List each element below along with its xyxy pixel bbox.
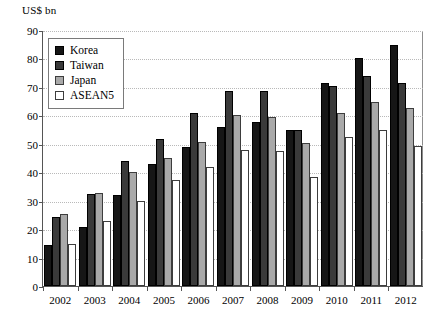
- bar-chart: US$ bn 0102030405060708090 2002200320042…: [0, 0, 447, 314]
- bar-group: 2010: [319, 31, 354, 286]
- x-axis-tick-label: 2010: [326, 294, 348, 306]
- y-axis-tick-label: 30: [27, 196, 38, 208]
- bar-korea-2004: [113, 195, 121, 286]
- bar-asean5-2002: [68, 244, 76, 287]
- bar-taiwan-2002: [52, 217, 60, 286]
- bar-japan-2010: [337, 113, 345, 286]
- bar-taiwan-2011: [363, 76, 371, 286]
- x-axis-tick-mark: [78, 286, 79, 291]
- legend-item-taiwan: Taiwan: [55, 58, 114, 73]
- x-axis-tick-mark: [216, 286, 217, 291]
- bar-group: 2011: [354, 31, 389, 286]
- bar-korea-2006: [182, 147, 190, 286]
- bar-asean5-2011: [379, 130, 387, 286]
- bar-group: 2012: [388, 31, 423, 286]
- bar-asean5-2003: [103, 221, 111, 286]
- bar-korea-2003: [79, 227, 87, 287]
- x-axis-tick-label: 2011: [360, 294, 382, 306]
- y-axis-tick-label: 0: [33, 281, 39, 293]
- bar-japan-2002: [60, 214, 68, 286]
- x-axis-tick-label: 2008: [257, 294, 279, 306]
- bar-japan-2007: [233, 115, 241, 286]
- legend-item-label: Korea: [70, 45, 98, 57]
- legend-item-korea: Korea: [55, 43, 114, 58]
- bar-asean5-2010: [345, 137, 353, 286]
- bar-asean5-2009: [310, 177, 318, 286]
- bar-japan-2012: [406, 108, 414, 287]
- bar-group: 2007: [216, 31, 251, 286]
- empty-square-icon: [55, 91, 64, 100]
- chart-legend: KoreaTaiwanJapanASEAN5: [48, 38, 124, 109]
- y-axis-unit-label: US$ bn: [22, 4, 57, 16]
- x-axis-tick-label: 2004: [118, 294, 140, 306]
- legend-item-label: ASEAN5: [70, 90, 114, 102]
- y-axis-tick-label: 20: [27, 224, 38, 236]
- bar-asean5-2006: [206, 167, 214, 286]
- x-axis-tick-mark: [285, 286, 286, 291]
- x-axis-tick-mark: [354, 286, 355, 291]
- x-axis-tick-label: 2002: [49, 294, 71, 306]
- bar-group: 2005: [147, 31, 182, 286]
- y-axis-tick-label: 50: [27, 139, 38, 151]
- y-axis-tick-label: 70: [27, 82, 38, 94]
- y-axis-tick-label: 90: [27, 25, 38, 37]
- bar-korea-2007: [217, 127, 225, 286]
- bar-asean5-2005: [172, 180, 180, 286]
- bar-korea-2005: [148, 164, 156, 286]
- filled-square-icon: [55, 61, 64, 70]
- bar-taiwan-2009: [294, 130, 302, 286]
- bar-korea-2002: [44, 245, 52, 286]
- x-axis-tick-label: 2005: [153, 294, 175, 306]
- bar-japan-2005: [164, 158, 172, 286]
- bar-japan-2011: [371, 102, 379, 286]
- bar-japan-2006: [198, 142, 206, 287]
- bar-asean5-2004: [137, 201, 145, 286]
- legend-item-label: Taiwan: [70, 60, 104, 72]
- y-axis-tick-label: 60: [27, 110, 38, 122]
- bar-group: 2008: [250, 31, 285, 286]
- bar-korea-2009: [286, 130, 294, 286]
- y-axis-tick-label: 80: [27, 53, 38, 65]
- bar-korea-2011: [355, 58, 363, 286]
- bar-japan-2003: [95, 193, 103, 287]
- legend-item-asean5: ASEAN5: [55, 88, 114, 103]
- bar-asean5-2007: [241, 150, 249, 286]
- x-axis-tick-label: 2003: [84, 294, 106, 306]
- y-axis-tick-label: 10: [27, 253, 38, 265]
- x-axis-tick-mark: [250, 286, 251, 291]
- x-axis-tick-mark: [112, 286, 113, 291]
- bar-asean5-2012: [414, 146, 422, 286]
- bar-taiwan-2008: [260, 91, 268, 287]
- x-axis-tick-label: 2009: [291, 294, 313, 306]
- x-axis-tick-label: 2012: [395, 294, 417, 306]
- bar-taiwan-2010: [329, 86, 337, 286]
- bar-group: 2009: [285, 31, 320, 286]
- x-axis-tick-label: 2006: [187, 294, 209, 306]
- legend-item-japan: Japan: [55, 73, 114, 88]
- filled-square-icon: [55, 46, 64, 55]
- x-axis-tick-mark: [43, 286, 44, 291]
- bar-taiwan-2012: [398, 83, 406, 286]
- bar-korea-2008: [252, 122, 260, 286]
- bar-korea-2010: [321, 83, 329, 286]
- bar-korea-2012: [390, 45, 398, 286]
- x-axis-tick-mark: [319, 286, 320, 291]
- bar-taiwan-2006: [190, 113, 198, 286]
- bar-japan-2004: [129, 172, 137, 286]
- x-axis-tick-label: 2007: [222, 294, 244, 306]
- bar-taiwan-2005: [156, 139, 164, 286]
- legend-item-label: Japan: [70, 75, 96, 87]
- bar-taiwan-2007: [225, 91, 233, 287]
- filled-square-icon: [55, 76, 64, 85]
- bar-taiwan-2003: [87, 194, 95, 286]
- bar-taiwan-2004: [121, 161, 129, 286]
- bar-asean5-2008: [276, 151, 284, 286]
- x-axis-tick-mark: [147, 286, 148, 291]
- x-axis-tick-mark: [388, 286, 389, 291]
- bar-group: 2006: [181, 31, 216, 286]
- y-axis-tick-label: 40: [27, 167, 38, 179]
- bar-japan-2009: [302, 143, 310, 286]
- bar-japan-2008: [268, 117, 276, 286]
- x-axis-tick-mark: [181, 286, 182, 291]
